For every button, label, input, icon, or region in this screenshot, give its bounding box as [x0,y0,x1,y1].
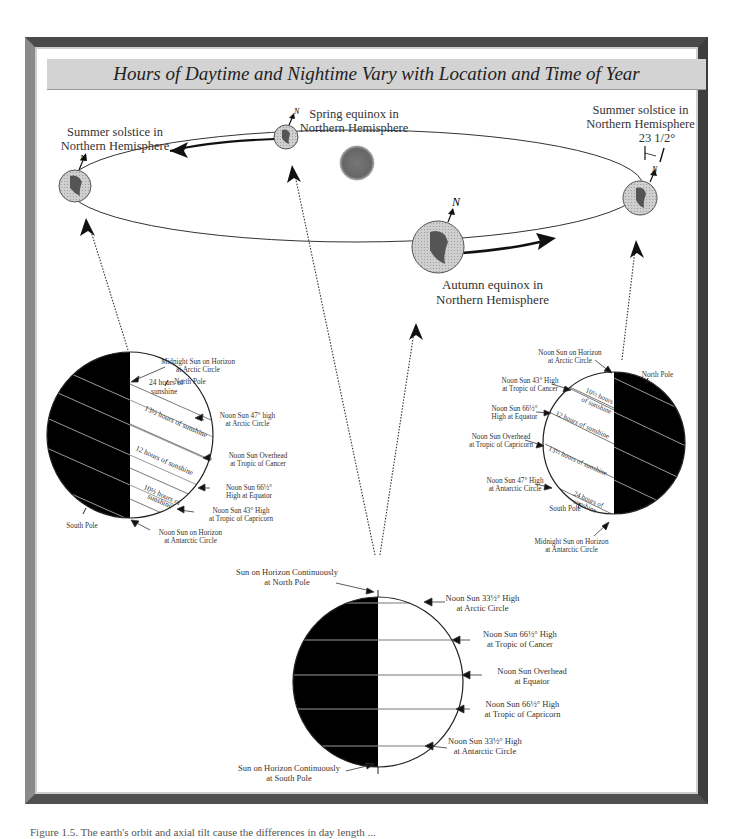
bottom-equator-label: Noon Sun Overhead at Equator [482,667,582,686]
tilt-angle-label: 23 1/2° [632,131,682,145]
right-noon-43-label: Noon Sun 43° High at Tropic of Cancer [490,377,570,393]
right-noon-horizon-label: Noon Sun on Horizon at Arctic Circle [530,349,610,365]
left-noon-43-label: Noon Sun 43° High at Tropic of Capricorn [196,507,286,523]
right-midnight-sun-label: Midnight Sun on Horizon at Antarctic Cir… [524,538,619,554]
sun-icon [340,146,374,180]
figure-caption: Figure 1.5. The earth's orbit and axial … [30,826,376,838]
bottom-cancer-label: Noon Sun 66½° High at Tropic of Cancer [470,630,570,649]
right-noon-overhead-label: Noon Sun Overhead at Tropic of Capricorn [462,433,540,449]
summer-solstice-left-label: Summer solstice in Northern Hemisphere [55,125,175,153]
autumn-equinox-label: Autumn equinox in Northern Hemisphere [425,278,560,307]
left-noon-horizon-label: Noon Sun on Horizon at Antarctic Circle [148,529,233,545]
right-noon-47-label: Noon Sun 47° High at Antarctic Circle [475,477,555,493]
svg-text:N: N [79,153,87,163]
earth-icon: N [412,195,464,273]
bottom-antarctic-label: Noon Sun 33½° High at Antarctic Circle [440,737,530,756]
earth-icon: N [623,146,664,215]
svg-text:N: N [651,165,658,174]
earth-icon: N [59,153,91,202]
bottom-north-pole-label: Sun on Horizon Continuously at North Pol… [232,568,342,587]
left-noon-66-label: Noon Sun 66½° High at Equator [214,484,284,500]
bottom-capricorn-label: Noon Sun 66½° High at Tropic of Capricor… [470,700,575,719]
summer-solstice-right-label: Summer solstice in Northern Hemisphere [578,103,703,131]
right-south-pole-label: South Pole [540,505,590,513]
left-south-pole-label: South Pole [57,522,107,530]
bottom-arctic-label: Noon Sun 33½° High at Arctic Circle [440,594,525,613]
left-midnight-sun-label: Midnight Sun on Horizon at Arctic Circle [153,358,243,374]
right-noon-66-label: Noon Sun 66½° High at Equator [482,405,547,421]
arrowhead-icon [80,165,644,340]
left-noon-47-label: Noon Sun 47° high at Arctic Circle [210,412,285,428]
spring-equinox-label: Spring equinox in Northern Hemisphere [294,107,414,135]
left-noon-overhead-label: Noon Sun Overhead at Tropic of Cancer [218,452,298,468]
svg-text:N: N [451,195,461,209]
left-north-pole-label: North Pole [160,378,220,386]
right-north-pole-label: North Pole [630,371,685,379]
bottom-south-pole-label: Sun on Horizon Continuously at South Pol… [234,764,344,783]
